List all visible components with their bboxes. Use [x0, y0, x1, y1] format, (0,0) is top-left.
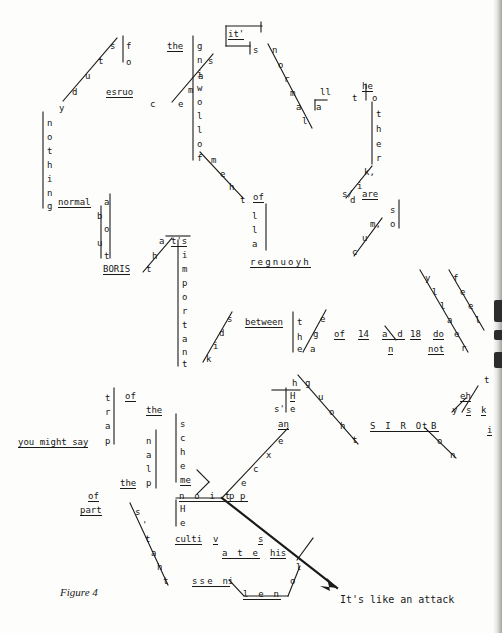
glyph-g-t-thought: t [352, 436, 357, 445]
glyph-g-t2-thats: t [163, 577, 168, 586]
glyph-g-s-its: s [253, 46, 258, 55]
glyph-g-part: part [80, 506, 102, 516]
glyph-g-c-much: c [352, 248, 357, 257]
glyph-g-l-feel: l [475, 316, 480, 325]
glyph-g-boris-2: S I R O B [370, 422, 439, 432]
glyph-g-i-foll: i [197, 70, 202, 79]
glyph-g-a-that: a [159, 237, 164, 246]
glyph-g-i-tail: i [487, 426, 492, 436]
glyph-g-u-much: u [362, 234, 367, 243]
figure-page: studyfoesruocsametheit'snormalllahetothe… [0, 0, 502, 633]
glyph-g-u-diag-1: u [85, 72, 90, 81]
glyph-g-l-prin: l [146, 465, 151, 474]
glyph-g-n-noth: n [47, 119, 52, 128]
glyph-g-h-sch: h [180, 448, 185, 457]
glyph-g-s-sch: s [180, 420, 185, 429]
glyph-g-of-2: of [253, 193, 264, 203]
glyph-g-e-really: e [454, 330, 459, 339]
glyph-g-h-them: h [229, 183, 234, 192]
glyph-g-younger: regnuoyh [250, 258, 311, 268]
glyph-g-o-imp: o [182, 293, 187, 302]
glyph-g-a-thats: a [151, 549, 156, 558]
glyph-g-e-hes: e [290, 405, 295, 414]
glyph-g-are: are [362, 190, 378, 200]
glyph-g-t-tail: t [484, 376, 489, 385]
closing-line: It's like an attack [340, 594, 454, 605]
glyph-g-a-all2: a [252, 240, 257, 249]
glyph-g-r-imp: r [182, 307, 187, 316]
glyph-g-p-imp: p [182, 279, 187, 288]
glyph-g-e-he2: e [180, 519, 185, 528]
glyph-g-H-he2: H [180, 505, 185, 514]
glyph-g-a2-imp: a [182, 335, 187, 344]
figure-caption: Figure 4 [60, 586, 98, 598]
glyph-g-ts-that: t's [171, 237, 187, 247]
glyph-g-not: not [428, 345, 444, 355]
glyph-g-y-sky: y [452, 406, 457, 415]
glyph-g-c-sch: c [180, 434, 185, 443]
glyph-g-h2-thought: h [340, 422, 345, 431]
glyph-g-s-us: s [390, 206, 395, 215]
glyph-g-r-other: r [376, 154, 381, 163]
glyph-g-y-diag-1: y [59, 104, 64, 113]
glyph-g-t-noth: t [47, 147, 52, 156]
glyph-g-a-all: a [316, 103, 321, 112]
glyph-g-o-normal: o [278, 61, 283, 70]
glyph-g-o-of: o [126, 58, 131, 67]
glyph-g-n-and: n [388, 345, 393, 355]
glyph-g-o-thought: o [329, 408, 334, 417]
glyph-g-l-normal: l [302, 117, 307, 126]
glyph-g-p-exc: p [229, 492, 234, 501]
glyph-g-k-sky: k [481, 406, 486, 416]
glyph-g-18: 18 [410, 330, 421, 340]
scan-blob-3 [494, 352, 502, 368]
glyph-g-h-thought: h [292, 379, 297, 388]
glyph-g-n-foll: n [197, 56, 202, 65]
glyph-g-l1-really: l [432, 288, 437, 297]
glyph-g-ad: a d [382, 330, 405, 340]
glyph-g-s-hes: s' [274, 405, 285, 414]
glyph-g-t-the3: t [297, 318, 302, 327]
glyph-g-m-much: m, [370, 220, 381, 229]
glyph-g-an: an [278, 420, 289, 430]
glyph-g-H-his: H [290, 392, 295, 402]
glyph-g-p-trap: p [105, 437, 110, 446]
glyph-g-ate: a t e [222, 549, 260, 559]
glyph-g-do: do [433, 330, 444, 340]
glyph-g-t-them: t [240, 196, 245, 205]
glyph-g-e2-exc: e [241, 479, 246, 488]
glyph-g-h-that: h [152, 252, 157, 261]
glyph-g-w-foll: w [197, 84, 202, 93]
glyph-g-m-same: m [188, 86, 193, 95]
glyph-g-o-about: o [104, 225, 109, 234]
glyph-g-f-feel: f [453, 274, 458, 283]
glyph-g-r-trap: r [105, 408, 110, 417]
glyph-g-you-might: you might say [18, 438, 88, 448]
glyph-g-u-about: u [97, 239, 102, 248]
glyph-g-e-sch: e [180, 462, 185, 471]
glyph-g-h-thats: h [157, 563, 162, 572]
glyph-g-d-think: d [219, 329, 224, 338]
scan-blob-1 [494, 300, 502, 322]
glyph-g-l2-really: l [440, 302, 445, 311]
glyph-g-e-same: e [178, 100, 183, 109]
glyph-g-f-foll: f [197, 154, 202, 163]
glyph-g-t-other: t [376, 110, 381, 119]
glyph-g-o-boris2: o [437, 437, 442, 446]
glyph-g-m-imp: m [182, 265, 187, 274]
glyph-g-e-exc: e [278, 437, 283, 446]
glyph-g-percep: n o i t p [179, 492, 248, 502]
glyph-g-o-us: o [390, 220, 395, 229]
glyph-g-h-noth: h [47, 161, 52, 170]
glyph-g-t-about: t [104, 252, 109, 261]
glyph-g-t3-imp: t [182, 360, 187, 369]
glyph-g-s-cult: s [258, 535, 263, 545]
glyph-g-n2-noth: n [47, 189, 52, 198]
glyph-g-r-normal: r [284, 75, 289, 84]
glyph-g-v-cult: v [213, 535, 218, 545]
glyph-g-between: between [245, 318, 283, 328]
glyph-g-h-other: h [376, 125, 381, 134]
glyph-g-the-4: the [146, 406, 162, 416]
glyph-g-l2-foll: l [197, 126, 202, 135]
glyph-g-n-imp: n [182, 348, 187, 357]
